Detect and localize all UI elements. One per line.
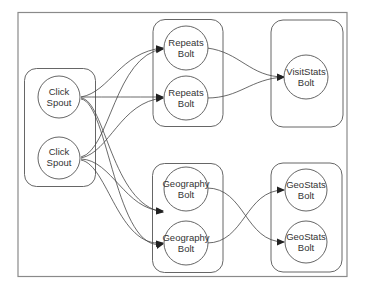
node-label-line1: GeoStats (286, 231, 326, 242)
node-label-line2: Bolt (178, 243, 195, 254)
edge-spout2-geography1 (81, 159, 163, 211)
node-geography-bolt-1: Geography Bolt (162, 167, 209, 211)
node-label-line2: Spout (47, 97, 72, 108)
edge-repeats2-visitstats (207, 77, 284, 98)
edge-geography2-geostats1 (207, 190, 284, 243)
edge-spout2-geography2 (81, 160, 163, 243)
node-label-line1: Click (49, 86, 70, 97)
node-label-line1: Repeats (168, 37, 204, 48)
node-label-line1: Geography (162, 178, 209, 189)
node-visitstats-bolt: VisitStats Bolt (284, 55, 328, 99)
edge-spout1-repeats1 (81, 48, 163, 97)
node-label-line2: Spout (47, 157, 72, 168)
edge-repeats1-visitstats (207, 48, 284, 77)
node-label-line2: Bolt (178, 189, 195, 200)
node-label-line2: Bolt (298, 190, 315, 201)
node-label-line1: VisitStats (286, 66, 326, 77)
node-repeats-bolt-2: Repeats Bolt (164, 76, 208, 120)
node-click-spout-1: Click Spout (38, 76, 80, 118)
node-label-line2: Bolt (298, 242, 315, 253)
node-label-line2: Bolt (178, 98, 195, 109)
node-geostats-bolt-2: GeoStats Bolt (285, 221, 327, 263)
node-label-line1: Click (49, 146, 70, 157)
node-label-line1: Geography (162, 232, 209, 243)
edge-spout2-repeats2 (81, 98, 163, 158)
node-click-spout-2: Click Spout (38, 137, 80, 179)
node-geostats-bolt-1: GeoStats Bolt (285, 169, 327, 211)
node-label-line2: Bolt (178, 48, 195, 59)
storm-topology-diagram: Click Spout Click Spout Repeats Bolt Rep… (0, 0, 366, 290)
node-repeats-bolt-1: Repeats Bolt (164, 26, 208, 70)
node-label-line1: GeoStats (286, 179, 326, 190)
edge-spout1-geography1 (81, 98, 163, 212)
edge-geography1-geostats2 (207, 188, 284, 242)
node-label-line2: Bolt (298, 77, 315, 88)
node-geography-bolt-2: Geography Bolt (162, 221, 209, 265)
edge-spout2-repeats1 (81, 49, 163, 157)
node-label-line1: Repeats (168, 87, 204, 98)
